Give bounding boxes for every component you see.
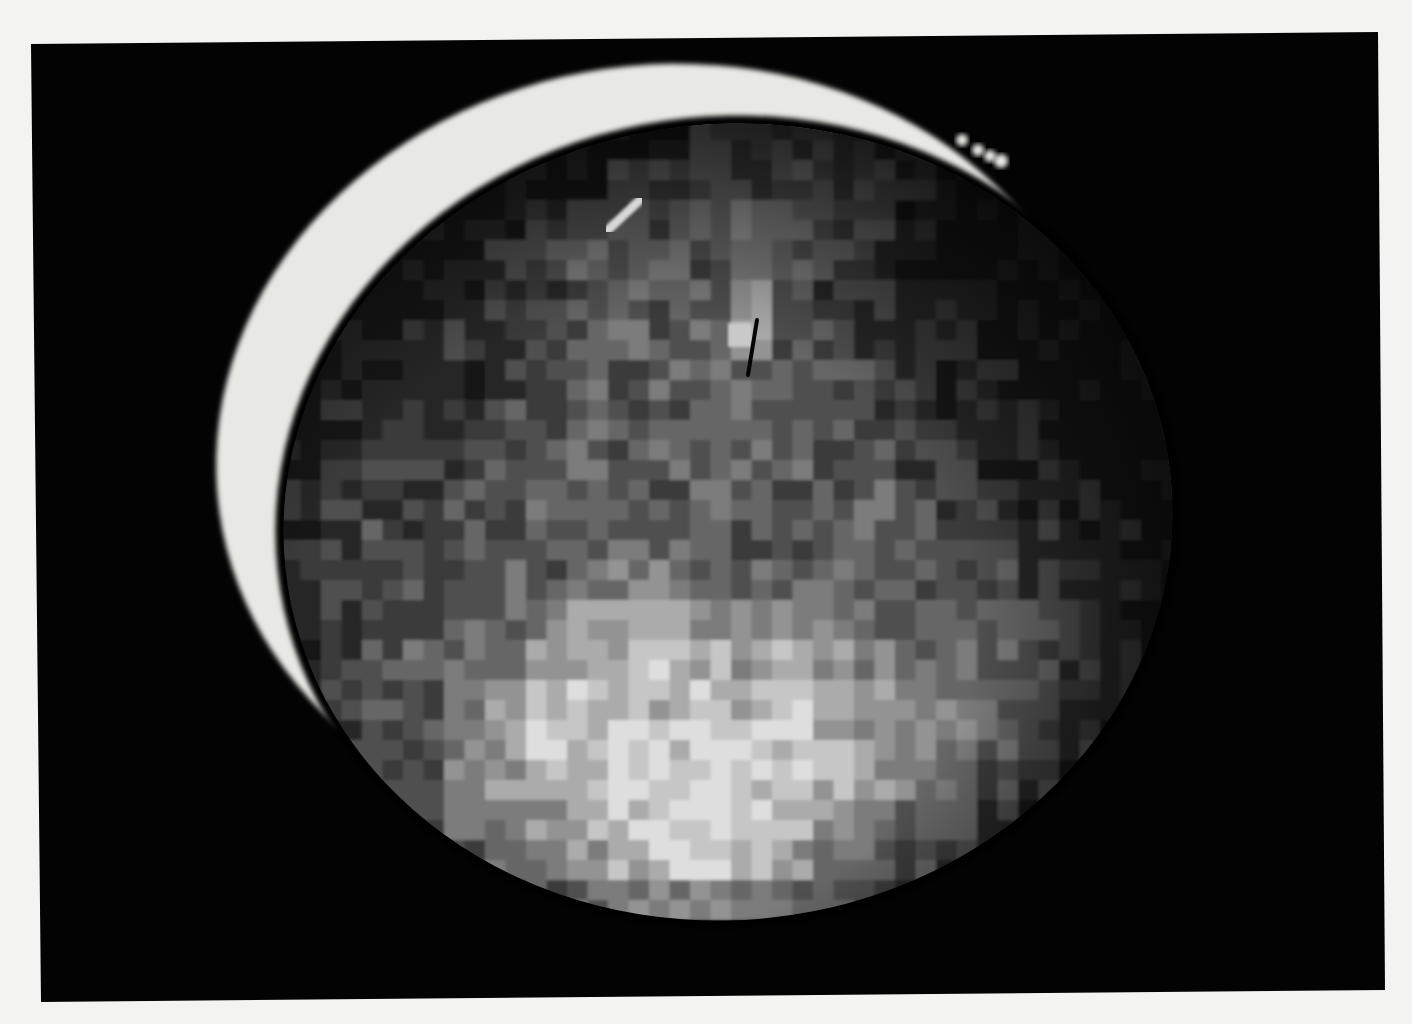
crescent-tail-dot xyxy=(994,154,1008,168)
image-stage: Pixelated grayscale photograph of a plan… xyxy=(0,0,1412,1024)
crescent-tail-dot xyxy=(972,144,984,156)
bright-spot xyxy=(728,323,752,347)
crescent-tail-dot xyxy=(956,134,968,146)
planet-photograph xyxy=(0,0,1412,1024)
